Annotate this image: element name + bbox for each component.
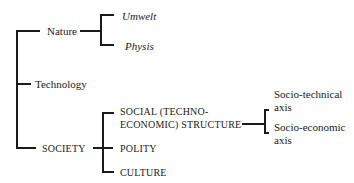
branch-social-structure bbox=[102, 112, 114, 114]
structure-bracket bbox=[264, 109, 266, 134]
node-polity: POLITY bbox=[120, 143, 157, 155]
branch-nature bbox=[16, 30, 40, 32]
node-social-structure-line1: SOCIAL (TECHNO- bbox=[120, 106, 208, 118]
node-physis: Physis bbox=[125, 40, 154, 52]
node-technology: Technology bbox=[35, 78, 87, 90]
node-society: SOCIETY bbox=[42, 143, 86, 155]
branch-technology bbox=[16, 83, 31, 85]
trunk-line bbox=[16, 30, 18, 149]
structure-connector bbox=[242, 123, 265, 125]
branch-socio-technical bbox=[264, 109, 269, 111]
nature-connector bbox=[80, 30, 102, 32]
branch-physis bbox=[100, 44, 114, 46]
branch-umwelt bbox=[100, 14, 114, 16]
node-social-structure-line2: ECONOMIC) STRUCTURE bbox=[120, 119, 241, 131]
node-socio-technical-line1: Socio-technical bbox=[274, 88, 342, 100]
branch-society bbox=[16, 147, 36, 149]
node-socio-economic-line1: Socio-economic bbox=[274, 121, 345, 133]
branch-culture bbox=[102, 171, 114, 173]
branch-socio-economic bbox=[264, 132, 269, 134]
node-umwelt: Umwelt bbox=[122, 10, 156, 22]
nature-bracket bbox=[100, 14, 102, 46]
node-culture: CULTURE bbox=[120, 167, 167, 179]
node-socio-economic-line2: axis bbox=[274, 134, 292, 146]
node-socio-technical-line2: axis bbox=[274, 101, 292, 113]
node-nature: Nature bbox=[47, 25, 77, 37]
society-bracket bbox=[102, 112, 104, 173]
